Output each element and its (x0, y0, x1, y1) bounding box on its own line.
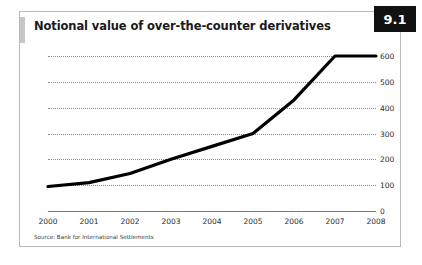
x-tick-label-2001: 2001 (79, 217, 98, 226)
y-tick-label-600: 600 (380, 52, 394, 61)
y-tick-label-0: 0 (380, 207, 385, 216)
x-tick-label-2000: 2000 (38, 217, 57, 226)
title-accent-bar (20, 17, 25, 43)
x-tick-label-2008: 2008 (366, 217, 385, 226)
x-tick-label-2004: 2004 (202, 217, 221, 226)
y-tick-label-200: 200 (380, 155, 394, 164)
x-axis-line (48, 211, 376, 212)
plot-area (48, 56, 376, 211)
source-note: Source: Bank for International Settlemen… (34, 234, 154, 240)
x-tick-label-2003: 2003 (161, 217, 180, 226)
figure-number-badge: 9.1 (374, 6, 416, 32)
y-tick-label-300: 300 (380, 129, 394, 138)
y-tick-label-400: 400 (380, 103, 394, 112)
x-tick-label-2006: 2006 (284, 217, 303, 226)
x-tick-label-2002: 2002 (120, 217, 139, 226)
x-tick-label-2007: 2007 (325, 217, 344, 226)
figure-panel: Notional value of over-the-counter deriv… (19, 11, 401, 247)
y-tick-label-500: 500 (380, 77, 394, 86)
page-title: Notional value of over-the-counter deriv… (34, 19, 331, 33)
x-tick-label-2005: 2005 (243, 217, 262, 226)
y-tick-label-100: 100 (380, 181, 394, 190)
data-series-line (48, 56, 376, 211)
